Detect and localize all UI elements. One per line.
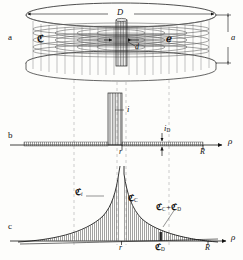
label-current-density-i: i: [127, 105, 129, 114]
label-displacement-current: iD: [164, 124, 170, 133]
label-gap-a: a: [231, 33, 235, 42]
panel-a-letter: a: [8, 33, 12, 42]
left-strip: [24, 142, 108, 146]
panel-b-letter: b: [8, 131, 13, 140]
panel-c-drawing: [10, 166, 226, 245]
panel-b-tick-r: r: [119, 148, 122, 156]
label-b-sum: ℭC+ℭD: [156, 203, 181, 212]
panel-c-tick-R: R: [205, 244, 210, 252]
central-wire: [116, 20, 127, 66]
label-b-field: ℭ: [37, 34, 44, 44]
displacement-current-strip: [122, 142, 203, 146]
label-wire-diameter-d: d: [135, 43, 139, 51]
conduction-current-bar: [108, 93, 122, 145]
bd-marker: [160, 232, 162, 241]
id-sub: D: [166, 127, 170, 133]
b-sum-sub-d: D: [177, 206, 181, 212]
panel-b-drawing: [10, 93, 222, 156]
label-e-field: ℯ: [166, 34, 172, 44]
physics-figure: a D a d ℭ ℯ b i iD r R ρ c ℭi ℭC ℭC+ℭD ℭ…: [0, 0, 243, 260]
label-b-d: ℭD: [155, 243, 165, 252]
b-d-sub: D: [161, 246, 165, 252]
panel-c-axis-label: ρ: [231, 233, 235, 242]
label-b-c: ℭC: [128, 194, 138, 204]
label-b-i: ℭi: [75, 188, 83, 198]
gap-dimension: [216, 15, 231, 63]
panel-b-axis-label: ρ: [228, 137, 232, 146]
panel-c-tick-r: r: [119, 244, 122, 252]
b-i-sub: i: [81, 191, 83, 197]
panel-b-tick-R: R: [200, 148, 205, 156]
bi-area-fill: [28, 176, 119, 241]
panel-c-letter: c: [8, 222, 12, 231]
b-c-sub: C: [134, 197, 138, 203]
label-diameter-D: D: [117, 8, 123, 17]
